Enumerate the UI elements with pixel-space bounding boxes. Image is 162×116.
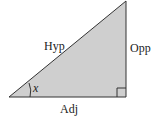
triangle-diagram: Hyp Opp Adj x: [0, 0, 162, 116]
angle-x-label: x: [32, 81, 39, 95]
hypotenuse-label: Hyp: [44, 39, 65, 53]
opposite-label: Opp: [130, 41, 151, 55]
adjacent-label: Adj: [60, 102, 78, 116]
right-triangle: [9, 1, 126, 97]
